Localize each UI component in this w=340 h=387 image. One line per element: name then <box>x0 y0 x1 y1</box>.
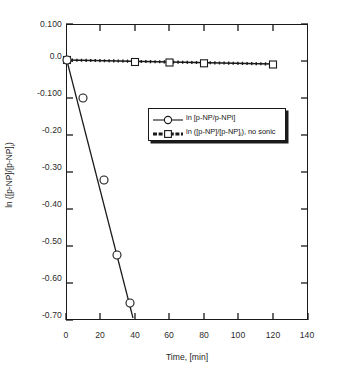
chart-legend: ln [p-NP/p-NPi] ln ([p-NP]/[p-NP]i), no … <box>148 108 286 141</box>
legend-label-no-sonic: ln ([p-NP]/[p-NP]i), no sonic <box>184 128 276 136</box>
x-axis-ticks-top <box>100 24 273 31</box>
legend-entry-sonicated: ln [p-NP/p-NPi] <box>152 111 235 125</box>
series-sonicated <box>63 56 134 318</box>
figure-caption <box>8 379 332 387</box>
series-no-sonic <box>64 57 277 69</box>
x-axis-ticks <box>66 313 308 320</box>
legend-entry-no-sonic: ln ([p-NP]/[p-NP]i), no sonic <box>152 125 276 139</box>
legend-label-sonicated: ln [p-NP/p-NPi] <box>184 114 235 122</box>
chart-canvas <box>0 0 340 387</box>
y-axis-ticks-right <box>301 24 308 283</box>
legend-key-square-icon <box>152 126 184 138</box>
figure-container: 0.100 0.0 -0.100 -0.20 -0.30 -0.40 -0.50… <box>0 0 340 387</box>
legend-key-circle-icon <box>152 112 184 124</box>
